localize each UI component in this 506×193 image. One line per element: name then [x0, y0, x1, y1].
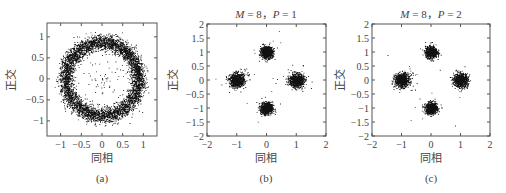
y-tick-label: 2	[199, 19, 204, 30]
x-tick-label: 2	[324, 139, 329, 150]
x-tick-label: 0	[264, 139, 269, 150]
y-axis-label-a: 正交	[4, 69, 18, 91]
y-tick-label: 1	[364, 47, 369, 58]
y-tick-label: 0.5	[192, 61, 205, 72]
x-tick-label: 1	[458, 139, 463, 150]
y-tick-label: 1.5	[192, 33, 205, 44]
caption-b: (b)	[260, 172, 273, 185]
plot-frame-b	[207, 24, 326, 136]
y-tick-label: −1	[358, 103, 369, 114]
plot-frame-c	[372, 24, 490, 136]
title-b-rest2: = 1	[279, 8, 296, 20]
constellation-figure: −1−0.500.5110.50−0.5−1 同相 正交 (a) M = 8，P…	[0, 0, 506, 193]
x-tick-label: 1	[294, 139, 299, 150]
y-tick-label: 1.5	[357, 33, 370, 44]
x-tick-label: 1	[141, 139, 146, 150]
x-tick-label: −1	[231, 139, 242, 150]
scatter-dots	[388, 42, 472, 126]
scatter-points-b	[216, 31, 313, 122]
panel-c: M = 8，P = 2 −2−101221.510.50−0.5−1−1.5−2…	[333, 8, 493, 185]
x-tick-label: −0.5	[72, 139, 90, 150]
y-axis-label-b: 正交	[166, 69, 180, 91]
title-c: M = 8，P = 2	[399, 8, 461, 20]
y-tick-label: 0	[199, 75, 204, 86]
scatter-dots	[55, 32, 150, 127]
scatter-dots	[216, 31, 313, 122]
x-axis-label-b: 同相	[255, 152, 277, 165]
y-tick-label: 2	[364, 19, 369, 30]
caption-a: (a)	[96, 172, 109, 185]
panel-a: −1−0.500.5110.50−0.5−1 同相 正交 (a)	[4, 23, 157, 185]
panel-b: M = 8，P = 1 −2−101221.510.50−0.5−1−1.5−2…	[166, 8, 329, 185]
y-tick-label: −0.5	[351, 89, 369, 100]
title-c-rest1: = 8，	[410, 8, 438, 20]
x-axis-label-a: 同相	[91, 152, 113, 165]
x-tick-label: 2	[488, 139, 493, 150]
y-tick-label: 0.5	[357, 61, 370, 72]
y-tick-label: −1.5	[351, 117, 369, 128]
y-tick-label: 0	[364, 75, 369, 86]
y-tick-label: −0.5	[186, 89, 204, 100]
caption-c: (c)	[425, 172, 438, 185]
title-b: M = 8，P = 1	[234, 8, 296, 20]
scatter-points-c	[388, 42, 472, 126]
y-tick-label: −1	[193, 103, 204, 114]
y-tick-label: −0.5	[26, 94, 44, 105]
x-tick-label: 0	[429, 139, 434, 150]
y-tick-label: −2	[358, 131, 369, 142]
scatter-points-a	[55, 32, 150, 127]
y-tick-label: −1.5	[186, 117, 204, 128]
y-tick-label: 0.5	[32, 52, 45, 63]
y-axis-label-c: 正交	[333, 69, 347, 91]
x-axis-label-c: 同相	[420, 152, 442, 165]
y-tick-label: 1	[199, 47, 204, 58]
x-tick-label: 0	[100, 139, 105, 150]
title-b-rest1: = 8，	[245, 8, 273, 20]
y-tick-label: 0	[39, 73, 44, 84]
x-tick-label: 0.5	[116, 139, 129, 150]
title-c-rest2: = 2	[444, 8, 461, 20]
x-tick-label: −1	[396, 139, 407, 150]
x-tick-label: −1	[55, 139, 66, 150]
y-tick-label: 1	[39, 31, 44, 42]
y-tick-label: −1	[33, 115, 44, 126]
y-tick-label: −2	[193, 131, 204, 142]
